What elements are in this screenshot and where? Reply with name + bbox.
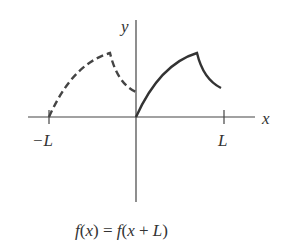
periodic-function-diagram: y x −L L f(x) = f(x + L) — [0, 0, 292, 252]
x-axis-label: x — [261, 109, 270, 128]
caption-L: L — [152, 221, 162, 240]
caption-plus: + — [135, 221, 153, 240]
dashed-curve — [49, 53, 136, 117]
solid-curve — [136, 53, 221, 117]
tick-L-label: L — [217, 131, 227, 150]
caption-equation: f(x) = f(x + L) — [75, 221, 168, 240]
y-axis-label: y — [119, 17, 129, 36]
tick-minus-L-label: −L — [32, 131, 53, 150]
caption-eq: = — [99, 221, 117, 240]
